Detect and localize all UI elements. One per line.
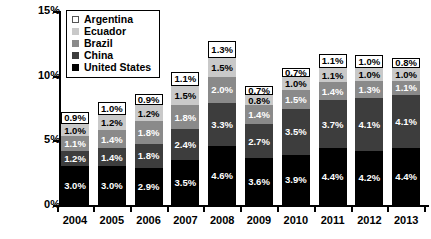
legend-item[interactable]: Argentina: [72, 14, 154, 25]
bar-segment-ecuador[interactable]: 1.5%: [171, 86, 199, 105]
bar-segment-ecuador[interactable]: 1.0%: [392, 68, 420, 81]
bar-segment-brazil[interactable]: 1.1%: [61, 136, 89, 150]
bar-stack[interactable]: 0.9%1.0%1.1%1.2%3.0%: [61, 112, 89, 205]
legend-swatch-icon: [72, 16, 79, 23]
legend: ArgentinaEcuadorBrazilChinaUnited States: [66, 10, 160, 78]
bar-segment-value: 4.2%: [359, 172, 381, 183]
bar-segment-value: 2.4%: [175, 139, 197, 150]
legend-item[interactable]: Ecuador: [72, 26, 154, 37]
bar-stack[interactable]: 0.7%1.0%1.5%3.5%3.9%: [282, 68, 310, 205]
bar-segment-ecuador[interactable]: 1.1%: [319, 68, 347, 82]
bar-segment-value: 4.1%: [395, 116, 417, 127]
bar-segment-unitedstates[interactable]: 3.6%: [245, 158, 273, 205]
bar-segment-unitedstates[interactable]: 3.9%: [282, 155, 310, 205]
bar-stack[interactable]: 1.1%1.1%1.4%3.7%4.4%: [319, 54, 347, 205]
legend-swatch-icon: [72, 28, 79, 35]
bar-segment-china[interactable]: 1.4%: [98, 148, 126, 166]
bar-segment-argentina[interactable]: 0.9%: [135, 94, 163, 106]
x-tick-mark: [167, 206, 169, 212]
x-tick-label: 2009: [239, 214, 279, 226]
bar-segment-argentina[interactable]: 0.7%: [282, 68, 310, 77]
bar-segment-brazil[interactable]: 1.1%: [392, 81, 420, 95]
bar-segment-ecuador[interactable]: 1.2%: [135, 105, 163, 121]
bar-segment-value: 1.2%: [138, 108, 160, 119]
bar-segment-ecuador[interactable]: 1.5%: [208, 58, 236, 77]
x-tick-label: 2004: [55, 214, 95, 226]
bar-segment-unitedstates[interactable]: 3.5%: [171, 160, 199, 205]
bar-segment-argentina[interactable]: 0.7%: [245, 86, 273, 95]
bar-segment-unitedstates[interactable]: 2.9%: [135, 168, 163, 206]
x-tick-mark: [351, 206, 353, 212]
y-tick: 0%: [0, 205, 60, 207]
bar-segment-brazil[interactable]: 1.4%: [245, 105, 273, 123]
bar-segment-ecuador[interactable]: 1.0%: [61, 124, 89, 137]
bar-segment-brazil[interactable]: 1.3%: [355, 81, 383, 98]
x-axis-line: [59, 205, 429, 207]
bar-segment-brazil[interactable]: 1.5%: [282, 90, 310, 109]
bar-segment-brazil[interactable]: 1.4%: [98, 130, 126, 148]
bar-segment-brazil[interactable]: 1.8%: [135, 121, 163, 144]
x-tick-mark: [277, 206, 279, 212]
y-tick-label: 10%: [28, 69, 60, 81]
bar-segment-value: 3.6%: [248, 176, 270, 187]
y-tick-label: 15%: [28, 4, 60, 16]
bar-segment-argentina[interactable]: 0.8%: [392, 58, 420, 68]
bar-segment-unitedstates[interactable]: 3.0%: [98, 166, 126, 205]
bar-stack[interactable]: 1.1%1.5%1.8%2.4%3.5%: [171, 72, 199, 205]
bar-segment-value: 3.5%: [285, 126, 307, 137]
x-tick-mark: [424, 206, 426, 212]
bar-stack[interactable]: 1.3%1.5%2.0%3.3%4.6%: [208, 41, 236, 205]
bar-segment-unitedstates[interactable]: 4.2%: [355, 151, 383, 205]
x-tick-label: 2006: [129, 214, 169, 226]
x-tick-mark: [57, 206, 59, 212]
bar-segment-china[interactable]: 3.3%: [208, 103, 236, 146]
bar-stack[interactable]: 0.7%0.8%1.4%2.7%3.6%: [245, 86, 273, 205]
legend-item[interactable]: United States: [72, 62, 154, 73]
y-tick: 15%: [0, 11, 60, 13]
bar-segment-unitedstates[interactable]: 4.4%: [319, 148, 347, 205]
bar-stack[interactable]: 1.0%1.0%1.3%4.1%4.2%: [355, 55, 383, 205]
bar-segment-argentina[interactable]: 0.9%: [61, 112, 89, 124]
bar-segment-china[interactable]: 4.1%: [355, 98, 383, 151]
bar-segment-brazil[interactable]: 1.4%: [319, 82, 347, 100]
bar-segment-china[interactable]: 2.4%: [171, 129, 199, 160]
legend-item[interactable]: China: [72, 50, 154, 61]
bar-segment-brazil[interactable]: 1.8%: [171, 105, 199, 128]
bar-segment-argentina[interactable]: 1.0%: [98, 102, 126, 115]
x-tick-mark: [314, 206, 316, 212]
bar-segment-value: 1.1%: [64, 138, 86, 149]
bar-segment-ecuador[interactable]: 1.0%: [282, 77, 310, 90]
bar-segment-unitedstates[interactable]: 3.0%: [61, 166, 89, 205]
bar-segment-china[interactable]: 1.8%: [135, 144, 163, 167]
bar-segment-ecuador[interactable]: 1.0%: [355, 68, 383, 81]
bar-segment-china[interactable]: 3.7%: [319, 100, 347, 148]
bar-segment-china[interactable]: 4.1%: [392, 95, 420, 148]
bar-stack[interactable]: 0.9%1.2%1.8%1.8%2.9%: [135, 94, 163, 205]
x-tick-label: 2005: [92, 214, 132, 226]
bar-segment-value: 3.7%: [322, 119, 344, 130]
bar-segment-value: 1.0%: [359, 56, 381, 67]
bar-segment-argentina[interactable]: 1.1%: [319, 54, 347, 68]
bar-segment-unitedstates[interactable]: 4.4%: [392, 148, 420, 205]
bar-segment-china[interactable]: 2.7%: [245, 124, 273, 159]
bar-segment-china[interactable]: 1.2%: [61, 151, 89, 167]
bar-segment-value: 1.0%: [64, 125, 86, 136]
bar-segment-value: 1.0%: [359, 69, 381, 80]
bar-stack[interactable]: 1.0%1.2%1.4%1.4%3.0%: [98, 102, 126, 205]
bar-segment-unitedstates[interactable]: 4.6%: [208, 146, 236, 205]
bar-segment-china[interactable]: 3.5%: [282, 109, 310, 154]
bar-segment-brazil[interactable]: 2.0%: [208, 77, 236, 103]
bar-segment-value: 4.6%: [211, 170, 233, 181]
y-tick: 5%: [0, 140, 60, 142]
bar-segment-ecuador[interactable]: 0.8%: [245, 95, 273, 105]
bar-segment-argentina[interactable]: 1.1%: [171, 72, 199, 86]
bar-segment-value: 2.7%: [248, 136, 270, 147]
bar-stack[interactable]: 0.8%1.0%1.1%4.1%4.4%: [392, 58, 420, 205]
legend-item[interactable]: Brazil: [72, 38, 154, 49]
bar-segment-value: 1.5%: [175, 90, 197, 101]
bar-segment-argentina[interactable]: 1.0%: [355, 55, 383, 68]
bar-segment-value: 4.4%: [322, 171, 344, 182]
bar-segment-argentina[interactable]: 1.3%: [208, 41, 236, 58]
bar-segment-ecuador[interactable]: 1.2%: [98, 115, 126, 131]
bar-segment-value: 3.0%: [101, 180, 123, 191]
